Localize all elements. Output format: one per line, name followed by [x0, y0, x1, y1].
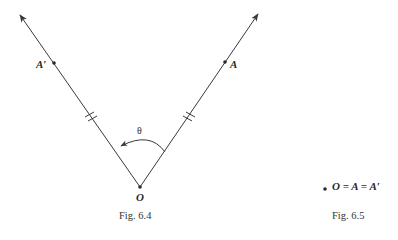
- label-o: O: [136, 191, 144, 203]
- figure-6-5: O = A = A′ Fig. 6.5: [323, 180, 380, 221]
- right-congruence-ticks: [183, 112, 195, 121]
- rotation-arc-icon: [121, 140, 165, 152]
- point-o: [138, 185, 142, 189]
- equation-label: O = A = A′: [332, 180, 380, 192]
- point-a: [223, 60, 227, 64]
- caption-fig-6-5: Fig. 6.5: [332, 210, 364, 221]
- caption-fig-6-4: Fig. 6.4: [119, 210, 152, 221]
- label-a-prime: A′: [35, 58, 46, 70]
- label-a: A: [229, 58, 237, 70]
- left-ray: [20, 15, 140, 187]
- right-ray: [140, 14, 258, 187]
- diagram-canvas: θ A′ A O Fig. 6.4 O = A = A′ Fig. 6.5: [0, 0, 398, 240]
- figure-6-4: θ A′ A O Fig. 6.4: [20, 14, 258, 221]
- point-a-prime: [52, 61, 56, 65]
- point-o-a-a-prime: [323, 187, 327, 191]
- angle-label: θ: [137, 125, 142, 136]
